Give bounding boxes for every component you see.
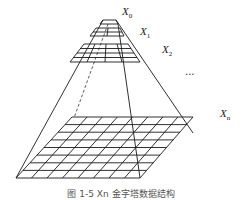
label-xn: Xn [220, 108, 230, 122]
level-x2 [70, 44, 140, 62]
label-x2: X2 [162, 44, 172, 58]
label-x1: X1 [140, 26, 150, 40]
level-x0 [100, 20, 118, 24]
figure-caption: 图 1-5 Xn 金字塔数据结构 [0, 187, 242, 200]
level-xn [16, 117, 193, 178]
edge-back-dashed [74, 24, 108, 118]
ellipsis: ... [185, 66, 195, 77]
label-x0: X0 [122, 6, 132, 20]
edge-right [116, 20, 193, 133]
pyramid-diagram [0, 0, 242, 200]
